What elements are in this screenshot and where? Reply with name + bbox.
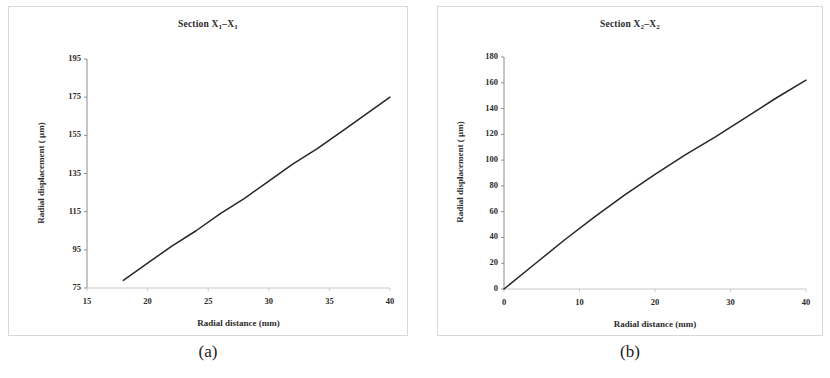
x-tick-label-a: 30 [254, 296, 284, 306]
y-tick-label-b: 140 [464, 103, 498, 113]
x-tick-label-b: 0 [489, 297, 519, 307]
plot-area-a: 7595115135155175195152025303540Radial di… [9, 7, 407, 335]
y-tick-label-b: 20 [464, 257, 498, 267]
figure-root: Section X1–X1 75951151351551751951520253… [0, 0, 830, 378]
y-axis-title-a: Radial displacement ( µm) [35, 38, 45, 307]
y-tick-label-a: 95 [47, 244, 81, 254]
y-tick-label-a: 195 [47, 53, 81, 63]
y-tick-label-a: 75 [47, 282, 81, 292]
x-tick-label-a: 15 [72, 296, 102, 306]
y-tick-label-a: 135 [47, 168, 81, 178]
x-axis-title-b: Radial distance (mm) [504, 319, 806, 329]
y-tick-label-b: 0 [464, 283, 498, 293]
x-tick-label-b: 20 [640, 297, 670, 307]
y-tick-label-b: 100 [464, 154, 498, 164]
x-tick-label-a: 40 [375, 296, 405, 306]
subfigure-caption-a: (a) [8, 342, 408, 362]
y-tick-label-a: 115 [47, 206, 81, 216]
data-series-line-a-0 [123, 97, 390, 280]
y-tick-label-b: 180 [464, 51, 498, 61]
y-axis-title-b: Radial displacement ( µm) [455, 36, 465, 308]
y-tick-label-b: 160 [464, 77, 498, 87]
data-series-line-b-0 [504, 80, 806, 289]
y-tick-label-b: 40 [464, 231, 498, 241]
x-tick-label-b: 30 [716, 297, 746, 307]
plot-area-b: 020406080100120140160180010203040Radial … [438, 7, 822, 335]
y-tick-label-a: 155 [47, 129, 81, 139]
subfigure-caption-b: (b) [437, 342, 823, 362]
x-tick-label-a: 20 [133, 296, 163, 306]
chart-panel-a: Section X1–X1 75951151351551751951520253… [8, 6, 408, 336]
x-tick-label-a: 35 [314, 296, 344, 306]
y-tick-label-b: 120 [464, 128, 498, 138]
y-tick-label-b: 80 [464, 180, 498, 190]
x-tick-label-a: 25 [193, 296, 223, 306]
x-tick-label-b: 40 [791, 297, 821, 307]
y-tick-label-a: 175 [47, 91, 81, 101]
x-tick-label-b: 10 [565, 297, 595, 307]
chart-panel-b: Section X2–X2 02040608010012014016018001… [437, 6, 823, 336]
y-tick-label-b: 60 [464, 206, 498, 216]
x-axis-title-a: Radial distance (mm) [87, 318, 390, 328]
